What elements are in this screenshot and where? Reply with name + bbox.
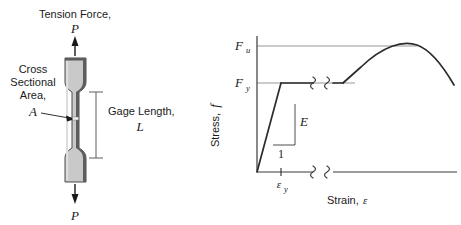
- gage-length-dimension: [89, 92, 103, 158]
- cross-sectional-area-symbol: A: [28, 104, 37, 119]
- tension-force-symbol-bottom: P: [70, 208, 79, 223]
- y-tick-yield: F y: [234, 75, 250, 93]
- arrow-down-icon: [72, 184, 79, 204]
- y-axis-label-text: Stress,: [209, 113, 221, 147]
- x-tick-yield-strain-subscript: y: [283, 184, 288, 194]
- tension-test-figure: Tension Force, P Cross Sectional A: [0, 0, 461, 225]
- y-axis-label-symbol: f: [207, 102, 222, 108]
- x-tick-yield-strain-label-group: ε y: [277, 178, 288, 194]
- gage-length-symbol: L: [135, 119, 143, 134]
- arrow-up-icon: [72, 36, 79, 56]
- x-tick-yield-strain-label: ε: [277, 178, 282, 190]
- x-axis-label-symbol: ε: [363, 194, 368, 206]
- y-tick-ultimate-subscript: u: [246, 45, 250, 55]
- y-tick-yield-subscript: y: [245, 83, 250, 93]
- modulus-label: E: [299, 114, 308, 129]
- unit-run-label: 1: [278, 147, 284, 161]
- section-cut-marker: [73, 117, 79, 120]
- tension-force-symbol-top: P: [70, 21, 79, 36]
- y-axis-label: Stress, f: [207, 102, 222, 147]
- stress-strain-svg: Stress, f F u F y: [205, 0, 461, 225]
- tension-force-label: Tension Force,: [39, 8, 111, 20]
- x-axis-label-text: Strain,: [327, 194, 359, 206]
- stress-strain-chart-panel: Stress, f F u F y: [205, 0, 461, 225]
- gage-length-label: Gage Length,: [108, 105, 175, 117]
- specimen-diagram-panel: Tension Force, P Cross Sectional A: [0, 0, 205, 225]
- cross-sectional-area-label-line1: Cross: [19, 63, 48, 75]
- modulus-slope-triangle: [273, 104, 295, 145]
- curve-strain-hardening-necking: [343, 43, 454, 85]
- x-axis-break-mark: [311, 166, 330, 178]
- area-leader-line: [41, 113, 75, 122]
- cross-sectional-area-label-line3: Area,: [20, 89, 46, 101]
- x-axis-label: Strain, ε: [327, 194, 368, 206]
- y-tick-ultimate-label: F: [234, 38, 244, 53]
- y-tick-ultimate: F u: [234, 38, 250, 55]
- specimen-svg: Tension Force, P Cross Sectional A: [0, 0, 205, 225]
- y-tick-yield-label: F: [234, 75, 244, 90]
- cross-sectional-area-label-line2: Sectional: [10, 76, 55, 88]
